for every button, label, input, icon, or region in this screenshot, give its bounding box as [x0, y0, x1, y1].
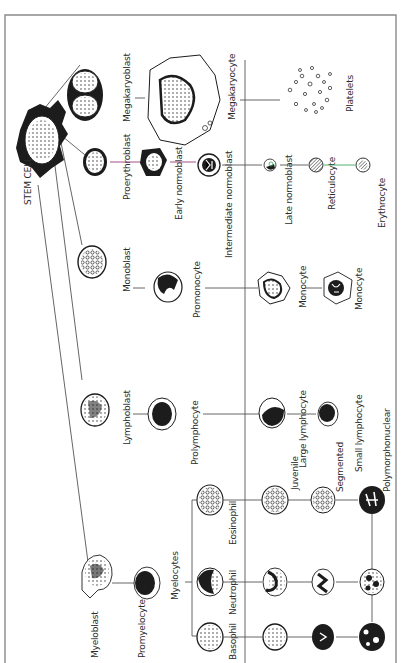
eosinophil-myelocyte-cell: [197, 485, 223, 515]
reticulocyte-label: Reticulocyte: [327, 156, 337, 210]
late-normoblast-cell: [264, 159, 276, 171]
intermediate-normoblast-label: Intermediate normoblast: [224, 150, 234, 258]
monocyte-cell-1: [258, 272, 290, 304]
platelets-label: Platelets: [345, 75, 355, 112]
basophil-segmented-cell: [312, 624, 334, 650]
early-normoblast-label: Early normoblast: [174, 146, 184, 220]
myelocyte-branch: [185, 500, 198, 636]
intermediate-normoblast-cell: [198, 154, 220, 176]
eosinophil-juvenile-cell: [262, 486, 288, 514]
promyelocyte-cell: [134, 567, 160, 599]
prolymphocyte-cell: [148, 398, 176, 430]
polymorphonuclear-label: Polymorphonuclear: [382, 408, 392, 492]
prolymphocyte-label: Prolymphocyte: [190, 400, 200, 465]
neutrophil-segmented-cell: [312, 569, 334, 595]
myeloblast-cell: [82, 555, 112, 598]
platelets-cluster: [288, 66, 331, 113]
stem-cell-label: STEM CELL: [23, 157, 33, 205]
megakaryoblast-cell: [67, 69, 103, 121]
erythrocyte-cell: [356, 158, 370, 172]
promonocyte-label: Promonocyte: [192, 260, 202, 318]
basophil-juvenile-cell: [263, 624, 287, 650]
lymphoblast-label: Lymphoblast: [122, 389, 132, 445]
myeloblast-label: Myeloblast: [90, 611, 100, 658]
megakaryoblast-label: Megakaryoblast: [122, 53, 132, 122]
proerythroblast-cell: [83, 148, 107, 176]
neutrophil-juvenile-cell: [263, 568, 287, 596]
small-lymphocyte-cell: [318, 402, 338, 426]
reticulocyte-cell: [309, 158, 323, 172]
large-lymphocyte-cell: [259, 398, 285, 428]
eosinophil-segmented-cell: [311, 487, 335, 513]
basophil-myelocyte-cell: [197, 623, 223, 651]
megakaryocyte-cell: [148, 55, 220, 145]
monocyte-label-1: Monocyte: [298, 265, 308, 308]
monocyte-label-2: Monocyte: [354, 267, 364, 310]
monoblast-label: Monoblast: [122, 247, 132, 292]
segmented-label: Segmented: [335, 442, 345, 492]
juvenile-label: Juvenile: [290, 455, 300, 491]
erythrocyte-label: Erythrocyte: [377, 177, 387, 228]
hematopoiesis-diagram: STEM CELL Megakaryoblast Megakaryocyte P…: [0, 0, 402, 663]
lymphoblast-cell: [81, 394, 109, 426]
monocyte-cell-2: [324, 272, 352, 304]
promyelocyte-label: Promyelocyte: [137, 598, 147, 658]
early-normoblast-cell: [140, 148, 167, 176]
monoblast-cell: [78, 246, 106, 278]
neutrophil-polymorphonuclear-cell: [360, 569, 384, 595]
megakaryocyte-label: Megakaryocyte: [227, 53, 237, 120]
basophil-polymorphonuclear-cell: [359, 623, 385, 651]
proerythroblast-label: Proerythroblast: [122, 133, 132, 200]
basophil-label: Basophil: [228, 623, 238, 660]
promonocyte-cell: [154, 272, 182, 302]
eosinophil-label: Eosinophil: [228, 501, 238, 545]
myelocytes-label: Myelocytes: [170, 551, 180, 600]
small-lymphocyte-label: Small lymphocyte: [354, 394, 364, 472]
neutrophil-myelocyte-cell: [197, 568, 223, 596]
neutrophil-label: Neutrophil: [228, 570, 238, 615]
